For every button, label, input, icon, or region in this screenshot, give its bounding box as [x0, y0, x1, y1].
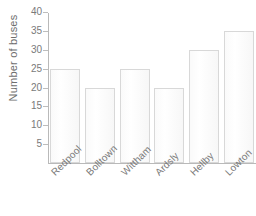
bar: [120, 69, 150, 163]
y-tick-mark: [43, 106, 48, 107]
y-tick-label: 35: [22, 26, 42, 36]
bar: [224, 31, 254, 163]
y-axis-tick-labels: 510152025303540: [20, 0, 42, 216]
bar: [85, 88, 115, 164]
x-axis-line: [48, 163, 256, 164]
y-tick-mark: [43, 12, 48, 13]
y-tick-label: 30: [22, 45, 42, 55]
y-tick-mark: [43, 125, 48, 126]
y-tick-label: 20: [22, 83, 42, 93]
y-tick-label: 5: [22, 139, 42, 149]
y-tick-label: 10: [22, 120, 42, 130]
bar-chart: Number of buses 510152025303540 RedpoolB…: [0, 0, 256, 216]
y-tick-mark: [43, 69, 48, 70]
y-tick-mark: [43, 88, 48, 89]
y-tick-label: 15: [22, 101, 42, 111]
y-tick-mark: [43, 50, 48, 51]
bar: [154, 88, 184, 164]
y-tick-label: 40: [22, 7, 42, 17]
bars-layer: [48, 12, 256, 163]
y-tick-label: 25: [22, 64, 42, 74]
bar: [50, 69, 80, 163]
y-axis-title: Number of buses: [7, 0, 19, 123]
bar: [189, 50, 219, 163]
y-tick-mark: [43, 144, 48, 145]
y-tick-mark: [43, 31, 48, 32]
